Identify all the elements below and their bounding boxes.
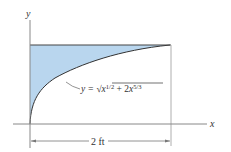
area-diagram: y x y = √x1/2 + 2x5/3 2 ft <box>0 0 231 152</box>
equation-label: y = √x1/2 + 2x5/3 <box>80 83 142 94</box>
dimension-label: 2 ft <box>91 136 105 147</box>
y-axis-label: y <box>25 8 31 19</box>
equation-leader <box>66 82 80 89</box>
dimension-arrow-left <box>31 140 36 143</box>
dimension-arrow-right <box>165 140 170 143</box>
x-axis-label: x <box>209 118 215 129</box>
